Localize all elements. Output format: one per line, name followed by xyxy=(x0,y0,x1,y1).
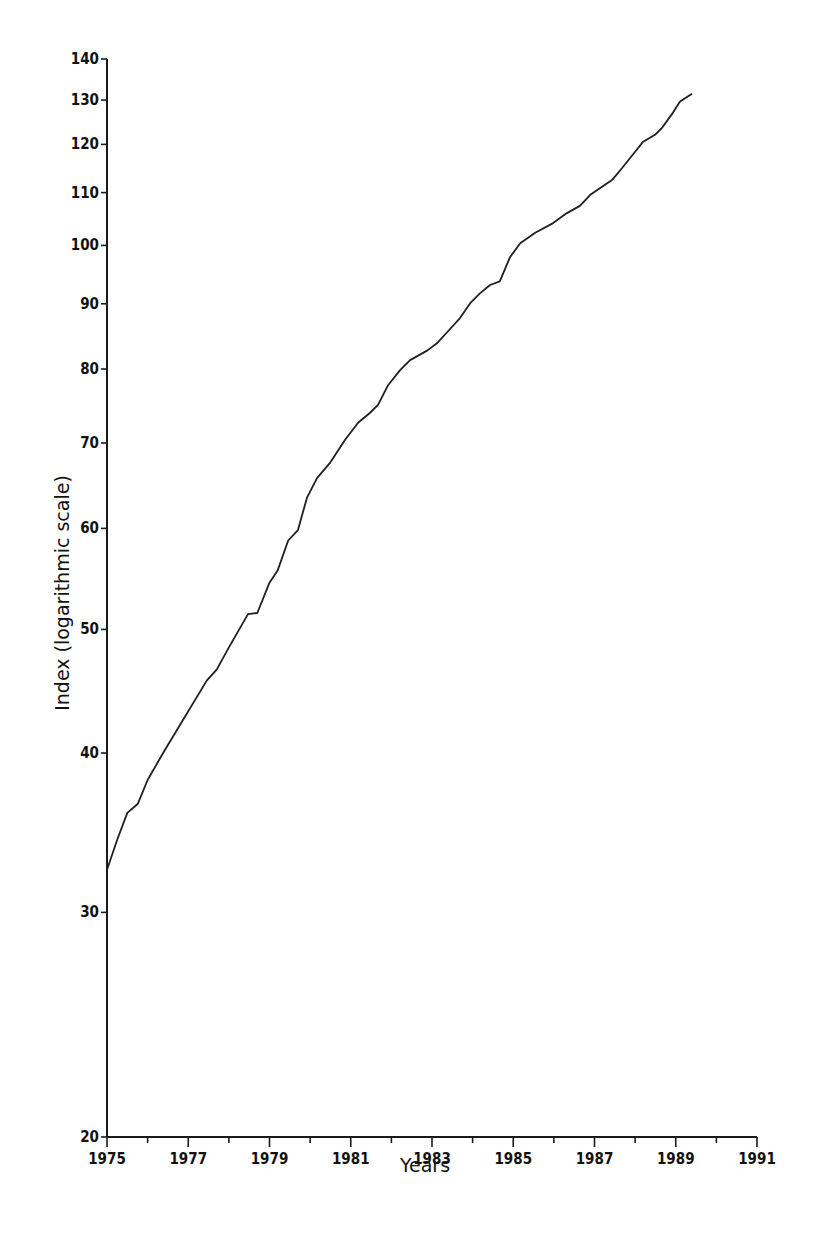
y-tick-label: 110 xyxy=(71,184,99,202)
x-tick-label: 1991 xyxy=(738,1150,776,1168)
y-tick-label: 80 xyxy=(80,360,99,378)
x-tick-label: 1977 xyxy=(169,1150,207,1168)
y-tick-label: 90 xyxy=(80,295,99,313)
y-tick-label: 70 xyxy=(80,434,99,452)
y-tick-label: 140 xyxy=(71,50,99,68)
x-tick-label: 1979 xyxy=(251,1150,289,1168)
x-tick-label: 1987 xyxy=(576,1150,614,1168)
x-axis-title: Years xyxy=(399,1154,450,1176)
x-tick-label: 1989 xyxy=(657,1150,695,1168)
y-tick-label: 60 xyxy=(80,519,99,537)
x-tick-label: 1975 xyxy=(88,1150,126,1168)
y-tick-label: 30 xyxy=(80,903,99,921)
y-tick-label: 50 xyxy=(80,620,99,638)
x-tick-label: 1985 xyxy=(494,1150,532,1168)
y-tick-label: 20 xyxy=(80,1128,99,1146)
y-tick-label: 100 xyxy=(71,236,99,254)
y-axis-title: Index (logarithmic scale) xyxy=(51,475,73,711)
y-axis-ticks: 2030405060708090100110120130140 xyxy=(71,50,107,1146)
y-tick-label: 40 xyxy=(80,744,99,762)
y-tick-label: 130 xyxy=(71,91,99,109)
line-chart: 2030405060708090100110120130140 19751977… xyxy=(0,0,814,1243)
y-tick-label: 120 xyxy=(71,135,99,153)
index-series-line xyxy=(107,94,692,870)
x-tick-label: 1981 xyxy=(332,1150,370,1168)
